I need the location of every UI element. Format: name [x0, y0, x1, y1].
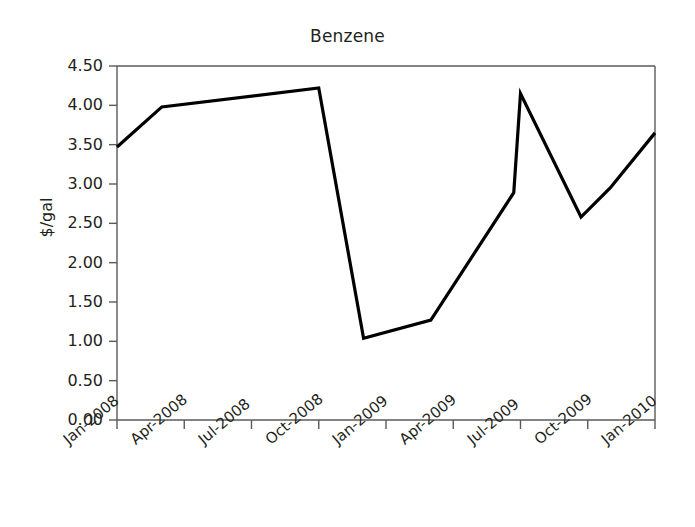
y-tick-label-6: 3.00 [47, 176, 103, 192]
y-axis-ticks [109, 66, 117, 420]
plot-area [0, 0, 695, 527]
y-tick-label-7: 3.50 [47, 137, 103, 153]
y-tick-label-4: 2.00 [47, 255, 103, 271]
y-tick-label-8: 4.00 [47, 97, 103, 113]
y-tick-label-3: 1.50 [47, 294, 103, 310]
y-tick-label-2: 1.00 [47, 333, 103, 349]
y-tick-label-5: 2.50 [47, 215, 103, 231]
chart-figure: Benzene $/gal 0.000.501.001.502.002.503.… [0, 0, 695, 527]
y-tick-label-9: 4.50 [47, 58, 103, 74]
data-series-group [117, 88, 655, 338]
y-tick-label-1: 0.50 [47, 373, 103, 389]
series-line-0 [117, 88, 655, 338]
axis-frame [117, 66, 655, 420]
